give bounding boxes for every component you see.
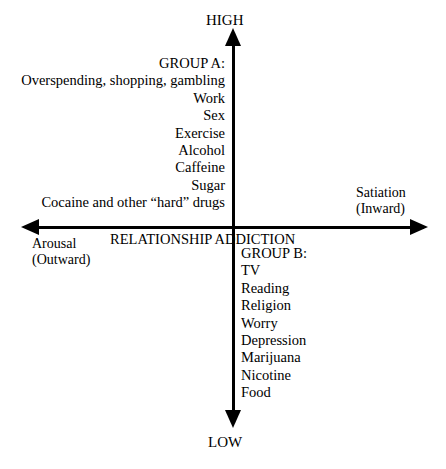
axis-label-low: LOW xyxy=(208,434,242,450)
arrow-up-icon xyxy=(225,28,241,46)
axis-label-arousal-line2: (Outward) xyxy=(32,252,90,268)
group-a-item: Caffeine xyxy=(0,159,225,176)
group-a-heading: GROUP A: xyxy=(0,55,225,72)
group-b-heading: GROUP B: xyxy=(241,245,441,262)
axis-label-arousal-line1: Arousal xyxy=(32,236,90,252)
group-b-item: TV xyxy=(241,262,441,279)
group-a-item: Exercise xyxy=(0,125,225,142)
group-b-item: Worry xyxy=(241,315,441,332)
group-b-item: Religion xyxy=(241,297,441,314)
arrow-right-icon xyxy=(410,219,428,235)
group-b-item: Nicotine xyxy=(241,367,441,384)
group-b-item: Depression xyxy=(241,332,441,349)
group-a-item: Work xyxy=(0,90,225,107)
addiction-quadrant-diagram: ADDICTIONS HIGH LOW Satiation (Inward) A… xyxy=(0,0,446,469)
clipped-title-container: ADDICTIONS xyxy=(0,0,446,3)
group-b-list: GROUP B: TV Reading Religion Worry Depre… xyxy=(241,245,441,402)
axis-label-high: HIGH xyxy=(206,12,244,28)
group-a-list: GROUP A: Overspending, shopping, gamblin… xyxy=(0,55,225,212)
group-b-item: Food xyxy=(241,384,441,401)
group-a-item: Sugar xyxy=(0,177,225,194)
vertical-axis-line xyxy=(232,38,235,420)
group-b-item: Marijuana xyxy=(241,349,441,366)
axis-label-satiation: Satiation (Inward) xyxy=(356,185,406,217)
axis-label-arousal: Arousal (Outward) xyxy=(32,236,90,268)
axis-label-satiation-line1: Satiation xyxy=(356,185,406,201)
group-b-item: Reading xyxy=(241,280,441,297)
arrow-left-icon xyxy=(21,219,39,235)
group-a-item: Overspending, shopping, gambling xyxy=(0,72,225,89)
axis-label-satiation-line2: (Inward) xyxy=(356,201,406,217)
group-a-item: Alcohol xyxy=(0,142,225,159)
horizontal-axis-line xyxy=(26,226,424,229)
group-a-item: Sex xyxy=(0,107,225,124)
group-a-item: Cocaine and other “hard” drugs xyxy=(0,194,225,211)
arrow-down-icon xyxy=(225,410,241,428)
diagram-title: ADDICTIONS xyxy=(0,0,446,3)
